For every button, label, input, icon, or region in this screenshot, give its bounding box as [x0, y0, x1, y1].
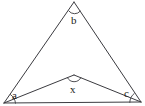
vertex-label-b: b: [71, 14, 77, 26]
side-b-c: [74, 2, 141, 102]
figure-canvas: b a c x: [0, 0, 145, 106]
vertex-label-c: c: [124, 87, 129, 99]
side-a-b: [4, 2, 74, 103]
angle-arc-x: [67, 78, 80, 82]
side-a-c: [4, 102, 141, 103]
vertex-label-x: x: [70, 83, 76, 95]
vertex-label-a: a: [12, 89, 17, 101]
geometry-figure: b a c x: [0, 0, 145, 106]
